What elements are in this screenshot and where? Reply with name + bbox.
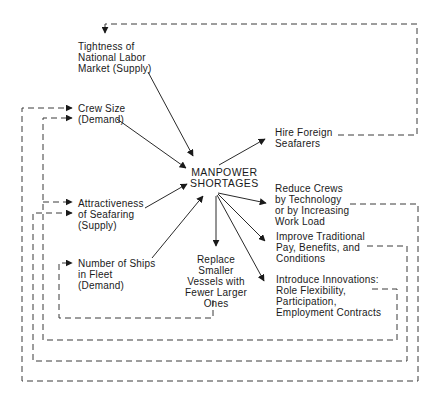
node-innovations: Introduce Innovations: Role Flexibility,… — [276, 274, 381, 318]
node-ships-in-fleet: Number of Ships in Fleet (Demand) — [78, 258, 155, 291]
node-line: of Seafaring — [78, 209, 144, 220]
node-line: Work Load — [275, 216, 349, 227]
node-line: National Labor — [78, 52, 152, 63]
node-line: Vessels with — [183, 276, 249, 287]
node-line: (Demand) — [78, 280, 155, 291]
node-line: (Demand) — [78, 114, 125, 125]
node-reduce-crews: Reduce Crews by Technology or by Increas… — [275, 183, 349, 227]
node-line: in Fleet — [78, 269, 155, 280]
node-manpower-shortages: MANPOWER SHORTAGES — [190, 167, 259, 189]
node-line: Tightness of — [78, 41, 152, 52]
node-line: Introduce Innovations: — [276, 274, 381, 285]
node-line: Replace — [183, 254, 249, 265]
node-line: Reduce Crews — [275, 183, 349, 194]
node-line: Crew Size — [78, 103, 125, 114]
node-line: Employment Contracts — [276, 307, 381, 318]
node-line: Fewer Larger — [183, 287, 249, 298]
node-line: or by Increasing — [275, 205, 349, 216]
node-improve-pay: Improve Traditional Pay, Benefits, and C… — [276, 231, 365, 264]
diagram-connectors — [0, 0, 439, 400]
node-line: Conditions — [276, 253, 365, 264]
arrow-labor-market-to-shortages — [148, 72, 193, 156]
arrow-crew-size-to-shortages — [117, 119, 186, 168]
node-line: Number of Ships — [78, 258, 155, 269]
arrow-to-hire-foreign — [219, 139, 265, 165]
node-line: Attractiveness — [78, 198, 144, 209]
arrow-attractiveness-to-shortages — [145, 184, 187, 208]
node-line: Hire Foreign — [275, 127, 332, 138]
node-labor-market: Tightness of National Labor Market (Supp… — [78, 41, 152, 74]
arrow-ships-to-shortages — [152, 196, 203, 258]
node-line: Improve Traditional — [276, 231, 365, 242]
node-line: Role Flexibility, — [276, 285, 381, 296]
node-line: Seafarers — [275, 138, 332, 149]
node-line: Pay, Benefits, and — [276, 242, 365, 253]
node-line: Ones — [183, 298, 249, 309]
node-line: (Supply) — [78, 220, 144, 231]
node-hire-foreign: Hire Foreign Seafarers — [275, 127, 332, 149]
node-attractiveness: Attractiveness of Seafaring (Supply) — [78, 198, 144, 231]
node-line: by Technology — [275, 194, 349, 205]
node-crew-size: Crew Size (Demand) — [78, 103, 125, 125]
node-line: Participation, — [276, 296, 381, 307]
node-line: SHORTAGES — [190, 178, 259, 189]
node-line: Market (Supply) — [78, 63, 152, 74]
node-replace-vessels: Replace Smaller Vessels with Fewer Large… — [183, 254, 249, 309]
node-line: Smaller — [183, 265, 249, 276]
